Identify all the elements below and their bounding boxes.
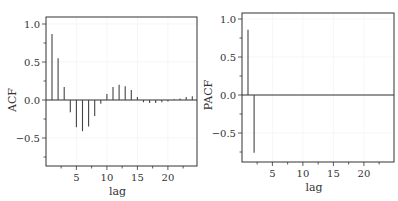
x-tick-label: 5 — [73, 172, 79, 183]
x-tick-label: 10 — [297, 168, 310, 179]
x-axis: 5101520 — [257, 162, 379, 179]
x-tick-label: 15 — [327, 168, 340, 179]
x-axis-label: lag — [305, 181, 322, 194]
y-tick-label: 0.5 — [24, 57, 40, 68]
y-tick-label: −0.5 — [16, 133, 40, 144]
x-tick-label: 10 — [101, 172, 114, 183]
y-tick-label: 1.0 — [220, 14, 236, 25]
x-axis-label: lag — [109, 185, 126, 198]
x-tick-label: 20 — [162, 172, 175, 183]
plot-frame — [242, 13, 394, 162]
y-axis-label: ACF — [6, 88, 19, 113]
pacf-plot: −0.50.00.51.05101520lagPACF — [202, 13, 394, 194]
x-axis: 5101520 — [61, 166, 183, 183]
plot-frame — [46, 17, 197, 166]
x-tick-label: 5 — [269, 168, 275, 179]
y-tick-label: 0.0 — [24, 95, 40, 106]
y-tick-label: 0.5 — [220, 52, 236, 63]
acf-pacf-figure: −0.50.00.51.05101520lagACF −0.50.00.51.0… — [0, 0, 398, 201]
y-axis: −0.50.00.51.0 — [16, 19, 46, 158]
stems — [248, 30, 254, 153]
x-tick-label: 15 — [131, 172, 144, 183]
y-tick-label: 1.0 — [24, 19, 40, 30]
grid — [46, 17, 197, 166]
y-axis-label: PACF — [202, 79, 215, 110]
y-tick-label: −0.5 — [212, 128, 236, 139]
y-tick-label: 0.0 — [220, 90, 236, 101]
grid — [242, 13, 394, 162]
y-axis: −0.50.00.51.0 — [212, 14, 242, 153]
x-tick-label: 20 — [358, 168, 371, 179]
stems — [52, 34, 192, 131]
acf-plot: −0.50.00.51.05101520lagACF — [6, 17, 197, 198]
